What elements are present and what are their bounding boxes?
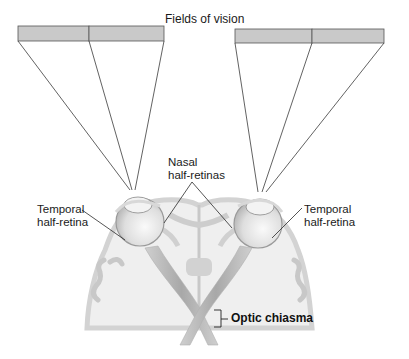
fields-of-vision-title: Fields of vision [165, 13, 244, 26]
temporal-half-retina-left-label: Temporal half-retina [37, 203, 88, 228]
right-visual-field [235, 29, 384, 43]
nasal-label-line2: half-retinas [168, 169, 225, 182]
temporal-left-line1: Temporal [37, 203, 88, 216]
left-eye-sight-lines [18, 41, 164, 190]
right-eyeball [234, 199, 282, 248]
temporal-right-line1: Temporal [304, 203, 355, 216]
temporal-right-line2: half-retina [304, 216, 355, 229]
optic-chiasma-label: Optic chiasma [231, 312, 313, 325]
left-visual-field [18, 26, 164, 41]
nasal-half-retinas-label: Nasal half-retinas [168, 156, 225, 181]
visual-pathway-diagram: Fields of vision Nasal half-retinas Temp… [0, 0, 409, 359]
right-eye-sight-lines [235, 43, 384, 192]
temporal-left-line2: half-retina [37, 216, 88, 229]
temporal-half-retina-right-label: Temporal half-retina [304, 203, 355, 228]
nasal-label-line1: Nasal [168, 156, 225, 169]
